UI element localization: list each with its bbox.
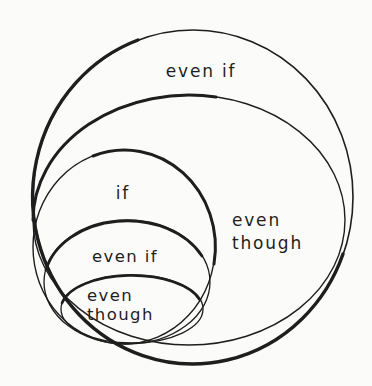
- label-ring-even: even: [232, 210, 281, 230]
- label-innermost-even: even: [87, 286, 133, 305]
- euler-diagram: even if even though if even if even thou…: [0, 0, 372, 386]
- euler-diagram-canvas: even if even though if even if even thou…: [0, 0, 372, 386]
- diagram-background: [0, 0, 372, 386]
- label-outer-even-if: even if: [166, 61, 236, 81]
- label-if: if: [116, 183, 130, 203]
- label-ring-though: though: [232, 233, 303, 253]
- label-innermost-though: though: [87, 305, 154, 324]
- label-inner-even-if: even if: [92, 247, 158, 266]
